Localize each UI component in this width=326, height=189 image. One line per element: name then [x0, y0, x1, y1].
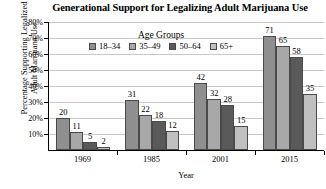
bar-item[interactable]: 35	[303, 22, 317, 150]
bar-value-label: 20	[59, 108, 68, 117]
bar-item[interactable]: 58	[290, 22, 304, 150]
bar[interactable]	[70, 132, 84, 150]
bar[interactable]	[152, 121, 166, 150]
bar-value-label: 31	[128, 90, 137, 99]
legend-swatch	[129, 43, 136, 50]
bar-value-label: 32	[210, 89, 219, 98]
bar[interactable]	[139, 115, 153, 150]
legend-items: 18–3435–4950–6465+	[62, 42, 260, 51]
x-tick-label: 2001	[186, 154, 255, 164]
bar[interactable]	[263, 36, 277, 150]
legend-title: Age Groups	[62, 29, 260, 41]
y-tick-label: 50%	[28, 66, 43, 75]
x-tick-label: 2015	[255, 154, 324, 164]
bar-value-label: 58	[292, 47, 301, 56]
y-tick-mark	[44, 54, 48, 55]
bar[interactable]	[303, 94, 317, 150]
y-tick-mark	[44, 70, 48, 71]
x-tick-mark	[324, 151, 325, 155]
x-tick-label: 1985	[117, 154, 186, 164]
y-tick-label: 40%	[28, 82, 43, 91]
legend-swatch	[210, 43, 217, 50]
x-tick-label: 1969	[48, 154, 117, 164]
bar[interactable]	[276, 46, 290, 150]
bar-value-label: 2	[102, 137, 106, 146]
y-tick-label: 80%	[28, 18, 43, 27]
bar[interactable]	[207, 99, 221, 150]
legend-swatch	[169, 43, 176, 50]
bar-value-label: 35	[306, 84, 315, 93]
bar[interactable]	[56, 118, 70, 150]
x-axis-title: Year	[48, 170, 324, 180]
bar-group: 71655835	[255, 22, 324, 150]
bar[interactable]	[221, 105, 235, 150]
y-tick-label: 10%	[28, 130, 43, 139]
legend-item[interactable]: 35–49	[129, 42, 160, 51]
bar[interactable]	[97, 147, 111, 150]
y-tick-mark	[44, 86, 48, 87]
bar-value-label: 18	[155, 111, 164, 120]
bar-value-label: 71	[265, 26, 274, 35]
y-tick-mark	[44, 22, 48, 23]
legend-item[interactable]: 50–64	[169, 42, 200, 51]
y-tick-label: 20%	[28, 114, 43, 123]
bar[interactable]	[125, 100, 139, 150]
y-tick-label: 30%	[28, 98, 43, 107]
bar-value-label: 28	[223, 95, 232, 104]
bar-value-label: 42	[196, 73, 205, 82]
legend-label: 65+	[220, 42, 233, 51]
x-axis-tick-labels: 1969198520012015	[48, 154, 324, 164]
bar-value-label: 15	[237, 116, 246, 125]
bar[interactable]	[194, 83, 208, 150]
bar-item[interactable]: 71	[263, 22, 277, 150]
y-tick-label: 60%	[28, 50, 43, 59]
y-tick-mark	[44, 102, 48, 103]
y-tick-mark	[44, 118, 48, 119]
bar-value-label: 5	[88, 132, 92, 141]
legend: Age Groups 18–3435–4950–6465+	[62, 29, 260, 51]
bar[interactable]	[166, 131, 180, 150]
legend-label: 18–34	[99, 42, 120, 51]
bar[interactable]	[290, 57, 304, 150]
legend-label: 50–64	[179, 42, 200, 51]
legend-swatch	[89, 43, 96, 50]
bar-value-label: 65	[279, 36, 288, 45]
y-tick-label: 70%	[28, 34, 43, 43]
bar-value-label: 12	[168, 121, 177, 130]
legend-label: 35–49	[139, 42, 160, 51]
chart-title: Generational Support for Legalizing Adul…	[34, 2, 326, 13]
bar[interactable]	[83, 142, 97, 150]
y-tick-mark	[44, 134, 48, 135]
bar-value-label: 11	[73, 122, 81, 131]
y-tick-mark	[44, 38, 48, 39]
bar-value-label: 22	[141, 105, 150, 114]
bar[interactable]	[234, 126, 248, 150]
chart-figure: Generational Support for Legalizing Adul…	[0, 0, 326, 189]
legend-item[interactable]: 18–34	[89, 42, 120, 51]
legend-item[interactable]: 65+	[210, 42, 233, 51]
bar-item[interactable]: 65	[276, 22, 290, 150]
